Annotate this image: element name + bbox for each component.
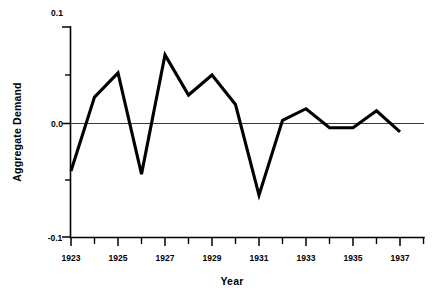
x-tick-label-1929: 1929 — [203, 253, 222, 263]
x-tick-label-1935: 1935 — [344, 253, 363, 263]
y-tick-label-top: 0.1 — [51, 8, 63, 18]
aggregate-demand-line-chart: 0.1 0.0 -0.1 1923 1925 1927 1 — [0, 0, 440, 295]
x-tick-label-1937: 1937 — [391, 253, 410, 263]
y-axis-title: Aggregate Demand — [11, 82, 23, 181]
x-tick-label-1927: 1927 — [156, 253, 175, 263]
x-tick-label-1931: 1931 — [250, 253, 269, 263]
y-tick-label-bottom: -0.1 — [48, 233, 63, 243]
x-tick-label-1923: 1923 — [62, 253, 81, 263]
x-tick-label-1933: 1933 — [297, 253, 316, 263]
x-tick-label-1925: 1925 — [109, 253, 128, 263]
chart-background — [0, 0, 440, 295]
y-tick-label-middle: 0.0 — [51, 119, 63, 129]
x-axis-title: Year — [221, 275, 244, 287]
chart-figure: 0.1 0.0 -0.1 1923 1925 1927 1 — [0, 0, 440, 295]
